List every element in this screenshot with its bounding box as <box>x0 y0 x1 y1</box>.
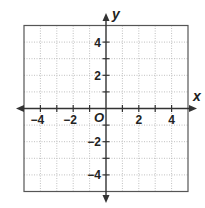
x-tick-label: −4 <box>31 113 45 127</box>
y-axis-up-arrow-icon <box>103 13 110 21</box>
y-axis-down-arrow-icon <box>103 195 110 203</box>
y-axis-label: y <box>111 6 121 22</box>
x-axis-right-arrow-icon <box>189 105 197 112</box>
x-axis-label: x <box>192 88 202 104</box>
y-tick-label: 2 <box>94 69 101 83</box>
y-tick-label: 4 <box>94 36 101 50</box>
y-tick-label: −4 <box>87 168 101 182</box>
x-tick-label: 4 <box>168 113 175 127</box>
x-tick-label: 2 <box>135 113 142 127</box>
x-axis-left-arrow-icon <box>16 105 24 112</box>
coordinate-plane: −4−22442−2−4 x y O <box>0 0 205 208</box>
origin-label: O <box>94 110 104 125</box>
x-tick-label: −2 <box>63 113 77 127</box>
y-tick-label: −2 <box>87 135 101 149</box>
